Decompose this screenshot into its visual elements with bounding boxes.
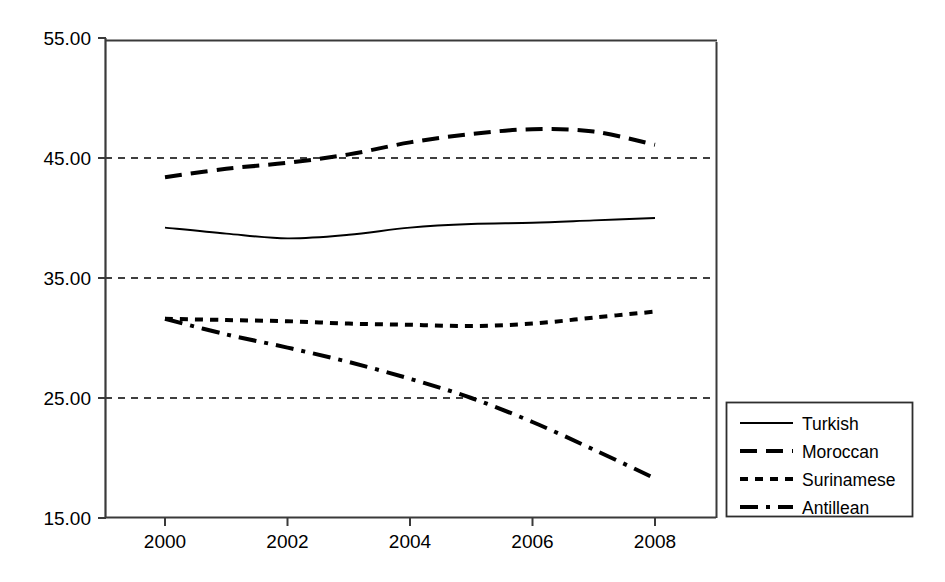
legend-label-antillean: Antillean — [802, 498, 869, 518]
chart-canvas: 15.0025.0035.0045.0055.00 20002002200420… — [0, 0, 945, 582]
x-tick-label: 2002 — [266, 531, 308, 552]
y-tick-label: 55.00 — [43, 28, 91, 49]
legend-label-surinamese: Surinamese — [802, 470, 895, 490]
legend-label-turkish: Turkish — [802, 414, 859, 434]
legend: TurkishMoroccanSurinameseAntillean — [727, 403, 913, 518]
x-tick-label: 2006 — [511, 531, 553, 552]
y-tick-label: 15.00 — [43, 508, 91, 529]
y-tick-label: 35.00 — [43, 268, 91, 289]
line-chart: 15.0025.0035.0045.0055.00 20002002200420… — [0, 0, 945, 582]
x-tick-label: 2004 — [389, 531, 432, 552]
x-tick-label: 2000 — [144, 531, 186, 552]
x-tick-label: 2008 — [634, 531, 676, 552]
legend-label-moroccan: Moroccan — [802, 442, 879, 462]
y-tick-label: 45.00 — [43, 148, 91, 169]
y-tick-label: 25.00 — [43, 388, 91, 409]
